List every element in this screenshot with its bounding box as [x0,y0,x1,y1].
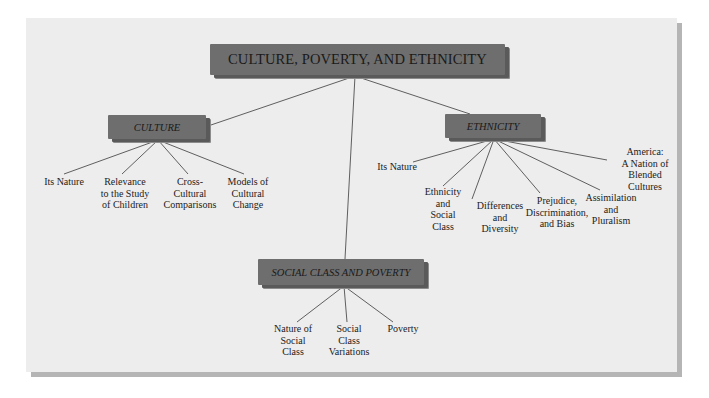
culture-node-label: CULTURE [134,122,180,133]
root-node-label: CULTURE, POVERTY, AND ETHNICITY [228,51,487,68]
leaf-ethnicity-differences: Differences and Diversity [477,200,523,235]
leaf-social-nature: Nature of Social Class [274,323,312,358]
leaf-culture-cross-cultural: Cross- Cultural Comparisons [164,176,217,211]
leaf-ethnicity-its-nature: Its Nature [377,161,417,173]
leaf-ethnicity-assimilation: Assimilation and Pluralism [585,192,636,227]
ethnicity-node-label: ETHNICITY [467,121,520,132]
ethnicity-node: ETHNICITY [445,114,541,138]
leaf-culture-relevance: Relevance to the Study of Children [101,176,149,211]
leaf-culture-models: Models of Cultural Change [228,176,269,211]
social-class-node-label: SOCIAL CLASS AND POVERTY [272,267,411,278]
social-class-node: SOCIAL CLASS AND POVERTY [258,259,424,285]
root-node: CULTURE, POVERTY, AND ETHNICITY [210,44,505,75]
leaf-ethnicity-social-class: Ethnicity and Social Class [425,186,462,232]
leaf-social-variations: Social Class Variations [329,323,370,358]
leaf-ethnicity-prejudice: Prejudice, Discrimination, and Bias [526,195,589,230]
leaf-social-poverty: Poverty [387,323,418,335]
culture-node: CULTURE [108,115,206,139]
leaf-culture-its-nature: Its Nature [44,176,84,188]
leaf-ethnicity-america: America: A Nation of Blended Cultures [621,146,668,192]
